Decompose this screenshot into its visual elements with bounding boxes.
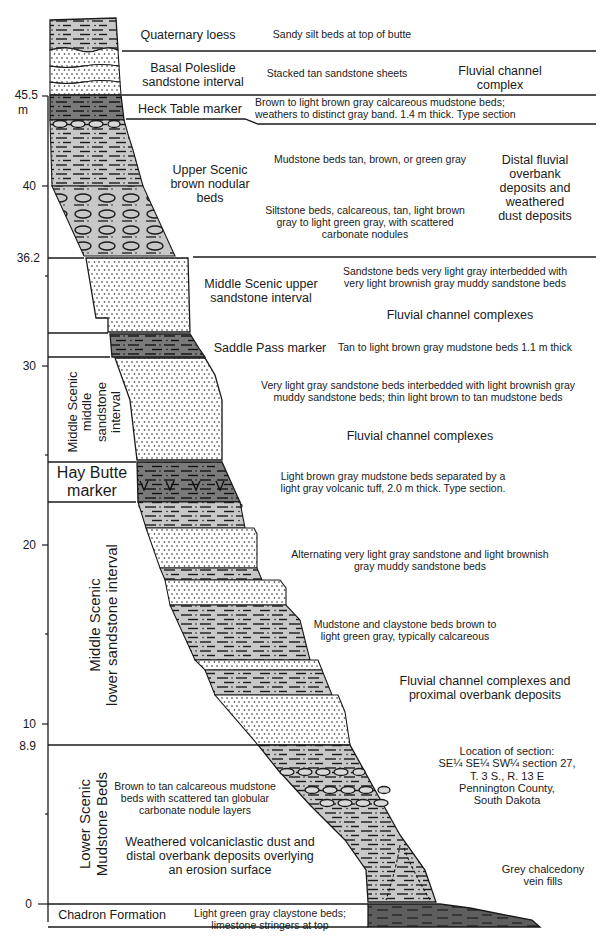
unit-name-mid-scenic-lower-sandstone: Middle Scenic lower sandstone interval <box>87 540 127 710</box>
layer-lower-mud-4 <box>205 670 332 695</box>
unit-name-mid-scenic-lower-sandstone-text: Middle Scenic lower sandstone interval <box>86 544 120 706</box>
unit-name-saddle-pass-marker: Saddle Pass marker <box>205 341 335 355</box>
desc-mid-scenic-lower-alternating: Alternating very light gray sandstone an… <box>280 549 560 573</box>
desc-hay-butte-marker: Light brown gray mudstone beds separated… <box>268 471 518 495</box>
desc-mid-scenic-upper-sandstone: Sandstone beds very light gray interbedd… <box>330 266 580 290</box>
interp-mid-scenic-upper-sandstone: Fluvial channel complexes <box>370 308 550 322</box>
unit-name-mid-scenic-middle-sandstone: Middle Scenic middle sandstone interval <box>66 362 126 462</box>
desc-mid-scenic-lower-mudstone: Mudstone and claystone beds brown to lig… <box>305 619 505 643</box>
interp-mid-scenic-lower-sandstone: Fluvial channel complexes and proximal o… <box>385 674 585 702</box>
layer-lower-sand-3 <box>195 660 322 670</box>
desc-chadron-formation: Light green gray claystone beds; limesto… <box>180 908 360 932</box>
location-annotation: Location of section: SE¼ SE¼ SW¼ section… <box>432 745 582 807</box>
axis-tick-20: 20 <box>0 539 36 551</box>
desc-lower-scenic-mudstone: Brown to tan calcareous mudstone beds wi… <box>105 781 285 816</box>
axis-tick-40: 40 <box>0 180 36 192</box>
interp-lower-scenic-mudstone: Weathered volcaniclastic dust and distal… <box>110 835 330 877</box>
layer-lower-sand-1 <box>146 528 257 568</box>
interp-upper-scenic: Distal fluvial overbank deposits and wea… <box>480 153 590 223</box>
layer-lower-sand-4 <box>215 695 350 745</box>
layer-heck-table-marker <box>50 95 124 120</box>
layer-lower-mud-2 <box>160 568 262 580</box>
layer-saddle-pass-marker <box>110 334 205 357</box>
desc-saddle-pass-marker: Tan to light brown gray mudstone beds 1.… <box>330 342 580 354</box>
layer-upper-scenic-nodular <box>52 186 175 256</box>
layer-quaternary-loess <box>50 18 118 52</box>
desc-upper-scenic-siltstone: Siltstone beds, calcareous, tan, light b… <box>250 205 480 240</box>
desc-basal-poleslide: Stacked tan sandstone sheets <box>262 68 412 80</box>
desc-mid-scenic-middle-sandstone: Very light gray sandstone beds interbedd… <box>248 380 588 404</box>
unit-name-quaternary-loess: Quaternary loess <box>128 28 248 42</box>
chalcedony-annotation: Grey chalcedony vein fills <box>488 863 598 888</box>
axis-tick-10: 10 <box>0 718 36 730</box>
unit-name-heck-table-marker: Heck Table marker <box>130 102 250 116</box>
layer-mid-scenic-upper-sandstone <box>86 258 190 332</box>
unit-name-basal-poleslide: Basal Poleslide sandstone interval <box>128 61 258 89</box>
layer-mid-scenic-middle-sandstone <box>115 358 222 460</box>
layer-lower-mud-3 <box>170 605 310 660</box>
layer-lower-sand-2 <box>165 580 286 605</box>
axis-tick-45-5: 45.5 <box>0 89 38 101</box>
desc-heck-table-marker: Brown to light brown gray calcareous mud… <box>255 97 575 121</box>
unit-name-hay-butte-marker: Hay Butte marker <box>52 464 132 500</box>
layer-chadron-formation <box>368 904 540 927</box>
layer-lower-mud-1 <box>138 502 245 528</box>
layer-upper-scenic-mudstone <box>50 120 143 186</box>
axis-tick-30: 30 <box>0 360 36 372</box>
unit-name-upper-scenic: Upper Scenic brown nodular beds <box>160 163 260 205</box>
axis-tick-8-9: 8.9 <box>0 740 36 752</box>
interp-mid-scenic-middle-sandstone: Fluvial channel complexes <box>330 429 510 443</box>
unit-name-mid-scenic-upper-sandstone: Middle Scenic upper sandstone interval <box>196 277 326 305</box>
axis-ticks <box>38 96 48 904</box>
axis-unit-label: m <box>0 104 28 116</box>
layer-hay-butte-marker <box>137 462 240 502</box>
desc-quaternary-loess: Sandy silt beds at top of butte <box>262 29 422 41</box>
interp-basal-poleslide: Fluvial channel complex <box>440 64 560 92</box>
unit-name-chadron-formation: Chadron Formation <box>52 908 172 922</box>
axis-tick-36-2: 36.2 <box>0 252 40 264</box>
desc-upper-scenic-mudstone: Mudstone beds tan, brown, or green gray <box>260 154 480 166</box>
axis-tick-0: 0 <box>0 898 32 910</box>
